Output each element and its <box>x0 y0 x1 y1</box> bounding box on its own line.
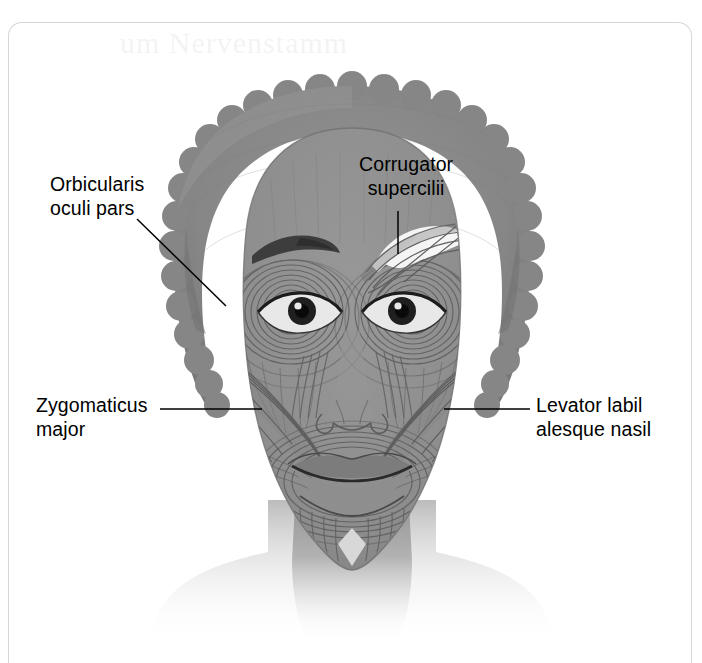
label-zygomaticus-major: Zygomaticus major <box>36 393 148 441</box>
label-line-2: major <box>36 417 148 441</box>
label-line-2: alesque nasil <box>536 417 651 441</box>
label-line-1: Zygomaticus <box>36 393 148 417</box>
label-corrugator-supercilii: Corrugator supercilii <box>359 152 453 200</box>
label-line-2: supercilii <box>359 176 453 200</box>
label-line-1: Orbicularis <box>50 172 144 196</box>
label-levator-labii-alaeque-nasi: Levator labil alesque nasil <box>536 393 651 441</box>
label-orbicularis-oculi-pars: Orbicularis oculi pars <box>50 172 144 220</box>
label-line-1: Levator labil <box>536 393 651 417</box>
label-line-2: oculi pars <box>50 196 144 220</box>
label-line-1: Corrugator <box>359 152 453 176</box>
